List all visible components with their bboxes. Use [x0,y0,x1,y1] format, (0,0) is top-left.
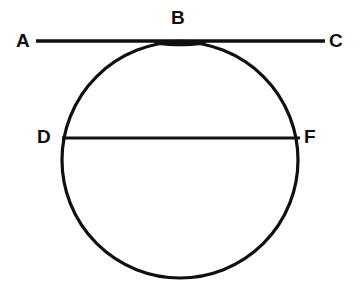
vertex-label-a: A [16,31,30,50]
vertex-label-d: D [37,127,51,146]
vertex-label-c: C [329,31,343,50]
tangency-point-marker [154,40,206,46]
geometry-figure: A B C D F [0,0,361,298]
vertex-label-b: B [171,8,185,27]
geometry-canvas [0,0,361,298]
vertex-label-f: F [304,127,316,146]
